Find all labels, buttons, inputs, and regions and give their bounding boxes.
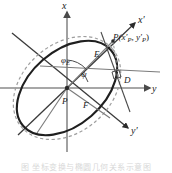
x-prime-axis-label: x′ — [138, 15, 145, 25]
point-label-D: D — [124, 76, 131, 85]
p-comma: , y′ — [131, 32, 141, 42]
construction-lines — [37, 32, 160, 133]
angle-label-psi: ψ — [81, 70, 87, 79]
angle-label-phi-e: φE — [61, 56, 70, 66]
segment-origin-to-P — [67, 41, 113, 88]
segment-origin-lower-left — [37, 88, 67, 133]
point-label-F: F — [83, 101, 89, 110]
origin-dot — [65, 86, 69, 90]
figure-caption: 图 坐标变换与椭圆几何关系示意图 — [0, 161, 172, 173]
point-label-E: E — [94, 50, 100, 59]
y-axis-label: y — [152, 84, 156, 94]
figure-container: x y x′ y′ φE ψ E F P D P(x′P, y′P) 图 坐标变… — [0, 0, 172, 173]
point-label-P-coordinates: P(x′P, y′P) — [113, 33, 149, 43]
point-label-P-center: P — [62, 97, 68, 106]
geometry-diagram-svg — [0, 0, 172, 173]
x-axis-label: x — [62, 1, 66, 11]
p-close-paren: ) — [146, 32, 149, 42]
y-prime-axis-label: y′ — [131, 126, 138, 136]
phi-subscript: E — [66, 59, 70, 66]
